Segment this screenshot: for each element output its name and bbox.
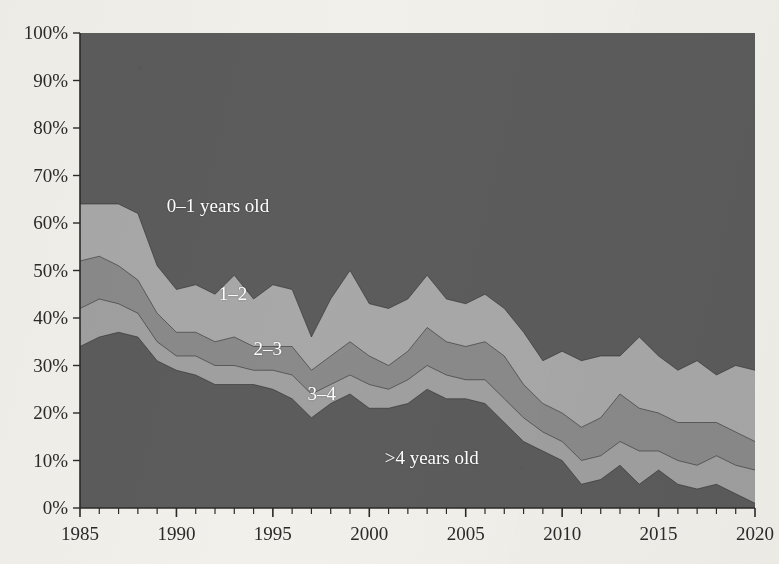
plot-area [0,0,779,564]
stacked-area-chart: 0%10%20%30%40%50%60%70%80%90%100% 198519… [0,0,779,564]
series-label: 1–2 [219,284,248,303]
series-label: 3–4 [308,384,337,403]
series-label: >4 years old [385,448,479,467]
series-label: 2–3 [254,339,283,358]
series-label: 0–1 years old [167,196,269,215]
